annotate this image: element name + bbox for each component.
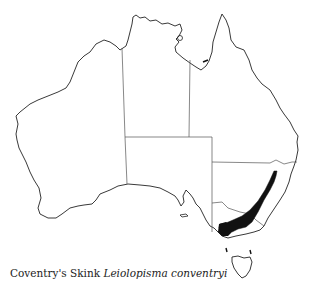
figure-caption: Coventry's Skink Leiolopisma conventryi: [10, 267, 227, 279]
australia-distribution-map: [0, 0, 312, 293]
state-borders: [122, 48, 297, 232]
border-qld-nsw: [212, 160, 297, 164]
island: [203, 60, 208, 62]
common-name: Coventry's Skink: [10, 267, 100, 279]
species-range-area: [219, 171, 277, 232]
island: [250, 250, 251, 254]
border-nt-qld: [189, 60, 190, 137]
island: [178, 36, 183, 41]
kangaroo-island: [180, 214, 188, 217]
scientific-name: Leiolopisma conventryi: [103, 267, 227, 279]
island: [226, 248, 227, 252]
border-wa: [122, 48, 127, 184]
tasmania-outline: [232, 256, 252, 278]
